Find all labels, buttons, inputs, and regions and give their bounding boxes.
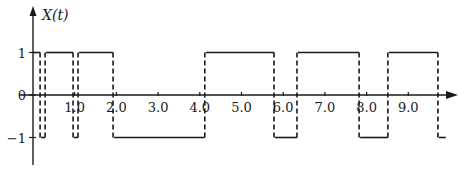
x-tick-label: 3.0 xyxy=(148,100,169,115)
y-tick-label: 0 xyxy=(18,88,26,103)
y-axis-label: X(t) xyxy=(41,7,69,23)
x-axis xyxy=(20,91,458,99)
x-tick-label: 1.0 xyxy=(64,100,85,115)
y-tick-label: 1 xyxy=(18,46,26,61)
random-telegraph-signal-chart: X(t) 10−1 1.02.03.04.05.06.07.08.09.0 xyxy=(0,0,467,175)
x-tick-label: 5.0 xyxy=(231,100,252,115)
y-axis xyxy=(30,6,37,165)
y-tick-label: −1 xyxy=(7,131,26,146)
plot-area: X(t) 10−1 1.02.03.04.05.06.07.08.09.0 xyxy=(0,0,467,175)
y-ticks: 10−1 xyxy=(7,46,36,146)
x-axis-arrow-icon xyxy=(446,91,458,99)
x-tick-label: 9.0 xyxy=(398,100,419,115)
x-tick-label: 6.0 xyxy=(273,100,294,115)
x-tick-label: 7.0 xyxy=(315,100,336,115)
x-tick-label: 4.0 xyxy=(189,100,210,115)
x-tick-label: 2.0 xyxy=(106,100,127,115)
y-axis-arrow-icon xyxy=(30,6,37,16)
